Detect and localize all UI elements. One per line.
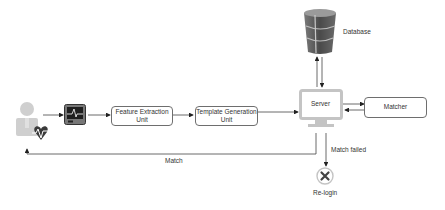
user-node bbox=[14, 100, 50, 146]
matcher-node: Matcher bbox=[364, 97, 427, 118]
feature-extraction-unit: Feature Extraction Unit bbox=[111, 106, 173, 126]
database-label: Database bbox=[343, 28, 371, 35]
server-node: Server bbox=[299, 89, 343, 129]
match-edge-label: Match bbox=[165, 157, 183, 164]
ecg-monitor-icon bbox=[64, 104, 86, 125]
relogin-label: Re-login bbox=[313, 189, 337, 196]
user-heartbeat-icon bbox=[14, 100, 50, 146]
match-failed-edge-label: Match failed bbox=[331, 146, 366, 153]
server-label: Server bbox=[311, 100, 330, 107]
sensor-node bbox=[64, 104, 86, 125]
close-circle-icon bbox=[316, 167, 334, 185]
relogin-node bbox=[316, 167, 334, 185]
database-node bbox=[302, 8, 338, 56]
diagram-canvas: Feature Extraction Unit Template Generat… bbox=[0, 0, 445, 210]
template-generation-unit: Template Generation Unit bbox=[195, 106, 258, 126]
database-icon bbox=[302, 8, 338, 56]
monitor-icon bbox=[299, 89, 343, 129]
